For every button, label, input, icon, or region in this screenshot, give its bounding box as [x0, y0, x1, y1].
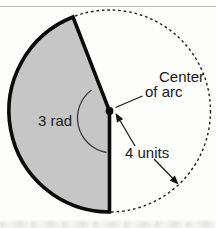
radius-arrow-to-edge	[154, 159, 173, 178]
figure-canvas: 3 rad Center of arc 4 units	[0, 0, 216, 228]
radius-arrowhead-to-center	[116, 113, 124, 123]
center-point	[106, 107, 114, 115]
center-label-leader-line	[116, 96, 143, 108]
angle-label: 3 rad	[38, 112, 72, 129]
scan-artifact-band	[0, 221, 216, 228]
radius-arrow-to-center	[120, 121, 135, 147]
circle-diagram: 3 rad Center of arc 4 units	[0, 0, 216, 228]
center-label-line2: of arc	[145, 83, 183, 100]
radius-label: 4 units	[125, 144, 169, 161]
